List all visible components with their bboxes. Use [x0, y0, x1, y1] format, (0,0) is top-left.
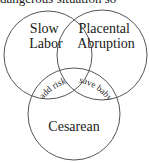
- venn-diagram: Slow Labor Placental Abruption Cesarean …: [0, 0, 149, 163]
- circle-cesarean: [28, 68, 120, 160]
- label-placental-abruption: Placental Abruption: [77, 21, 135, 51]
- label-slow-labor: Slow Labor: [29, 21, 63, 51]
- label-cesarean: Cesarean: [48, 119, 99, 134]
- label-save-baby: save baby: [79, 75, 116, 103]
